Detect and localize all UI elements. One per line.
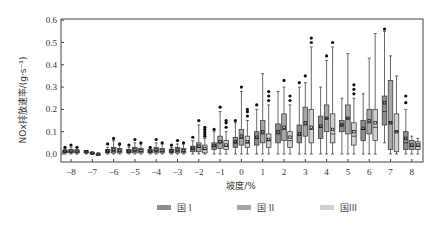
outlier-point <box>127 143 130 146</box>
box-0-16 <box>404 94 409 154</box>
box-1-12 <box>324 54 329 154</box>
outlier-point <box>352 92 355 95</box>
x-tick-label: 5 <box>346 167 351 177</box>
outlier-point <box>298 81 301 84</box>
outlier-point <box>310 36 313 39</box>
outlier-point <box>246 114 249 117</box>
outlier-point <box>112 137 115 140</box>
x-axis-title: 坡度/% <box>226 180 256 191</box>
y-tick-label: 0.1 <box>46 127 57 137</box>
x-tick-label: 4 <box>324 167 329 177</box>
legend: 国 I国 II国III <box>157 203 357 213</box>
box-0-10 <box>276 92 281 154</box>
box-2-7 <box>224 119 229 154</box>
x-tick-label: 1 <box>260 167 265 177</box>
box-2-16 <box>416 138 421 154</box>
box-2-11 <box>309 36 314 154</box>
outlier-point <box>63 146 66 149</box>
outlier-point <box>404 101 407 104</box>
outlier-point <box>161 141 164 144</box>
legend-swatch <box>237 205 251 210</box>
outlier-point <box>288 94 291 97</box>
outlier-point <box>203 126 206 129</box>
box-2-13 <box>352 83 357 154</box>
box-2-8 <box>245 108 250 154</box>
outlier-point <box>225 119 228 122</box>
box-2-9 <box>266 90 271 154</box>
x-tick-label: 2 <box>282 167 287 177</box>
box-0-14 <box>361 94 366 154</box>
box-0-1 <box>84 150 89 154</box>
y-axis-title: NOx排放速率/(g·s⁻¹) <box>17 57 28 144</box>
y-tick-label: 0.6 <box>46 15 58 25</box>
outlier-point <box>118 142 121 145</box>
outlier-point <box>304 74 307 77</box>
box-2-5 <box>181 141 186 154</box>
box-2-10 <box>288 94 293 154</box>
x-tick-label: −5 <box>130 167 140 177</box>
box-2-2 <box>117 142 122 154</box>
legend-swatch <box>320 205 334 210</box>
outlier-point <box>404 94 407 97</box>
legend-label: 国 II <box>257 203 274 213</box>
x-tick-label: −7 <box>88 167 98 177</box>
outlier-point <box>310 41 313 44</box>
box-0-0 <box>63 146 68 154</box>
outlier-point <box>139 141 142 144</box>
y-tick-label: 0.4 <box>46 60 58 70</box>
box-0-4 <box>148 146 153 154</box>
outlier-point <box>240 86 243 89</box>
box-0-15 <box>382 28 387 143</box>
outlier-point <box>219 106 222 109</box>
x-tick-label: 6 <box>367 167 372 177</box>
outlier-point <box>133 138 136 141</box>
box-2-1 <box>96 153 101 156</box>
box-2-12 <box>330 41 335 154</box>
box-0-2 <box>105 142 110 154</box>
outlier-point <box>106 142 109 145</box>
box-2-14 <box>373 34 378 154</box>
box-1-10 <box>282 79 287 154</box>
x-tick-label: 8 <box>410 167 415 177</box>
y-tick-label: 0.0 <box>46 149 58 159</box>
outlier-point <box>352 88 355 91</box>
legend-label: 国 I <box>177 203 192 213</box>
outlier-point <box>75 146 78 149</box>
box-0-11 <box>297 81 302 154</box>
box-1-14 <box>367 58 372 154</box>
outlier-point <box>69 143 72 146</box>
outlier-point <box>383 28 386 31</box>
box-1-2 <box>111 137 116 154</box>
legend-swatch <box>157 205 171 210</box>
plot-area <box>63 28 420 156</box>
outlier-point <box>191 136 194 139</box>
box-plot-chart: 0.00.10.20.30.40.50.6−8−7−6−5−4−3−2−1012… <box>0 0 436 227</box>
box-1-4 <box>154 138 159 154</box>
outlier-point <box>325 54 328 57</box>
outlier-point <box>234 119 237 122</box>
axes: 0.00.10.20.30.40.50.6−8−7−6−5−4−3−2−1012… <box>46 15 423 177</box>
outlier-point <box>331 41 334 44</box>
box-0-6 <box>191 136 196 154</box>
box-0-7 <box>212 128 217 154</box>
outlier-point <box>255 103 258 106</box>
box-0-13 <box>340 98 345 154</box>
box-2-3 <box>139 141 144 154</box>
x-tick-label: −8 <box>66 167 76 177</box>
outlier-point <box>213 128 216 131</box>
x-tick-label: 3 <box>303 167 308 177</box>
x-tick-label: 7 <box>388 167 393 177</box>
box-1-7 <box>218 106 223 154</box>
box-1-0 <box>69 143 74 154</box>
y-tick-label: 0.5 <box>46 38 58 48</box>
outlier-point <box>176 139 179 142</box>
outlier-point <box>246 108 249 111</box>
box-2-0 <box>75 146 80 154</box>
x-tick-label: 0 <box>239 167 244 177</box>
x-tick-label: −3 <box>173 167 183 177</box>
outlier-point <box>149 146 152 149</box>
x-tick-label: −4 <box>151 167 161 177</box>
box-2-15 <box>394 76 399 154</box>
outlier-point <box>267 90 270 93</box>
box-0-12 <box>318 87 323 154</box>
